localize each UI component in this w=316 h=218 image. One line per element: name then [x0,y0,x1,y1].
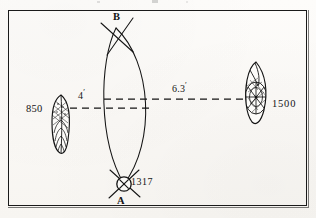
long-span-label: 6.3′ [172,82,187,94]
top-cross-stroke-b [107,18,133,55]
crossed-circle-node [117,177,131,191]
short-span-label: 4′ [78,89,85,101]
vertex-label-b: B [113,12,120,23]
figure-root: 850 1500 4′ 6.3′ B A 1317 [0,0,316,218]
lens-arc-right [116,28,146,184]
right-specimen-label: 1500 [272,99,296,110]
diagram-artwork [0,0,316,218]
long-span-value: 6.3 [172,83,185,94]
vertex-label-a: A [117,196,125,207]
left-specimen-label: 850 [26,104,43,115]
top-crossing [101,18,133,55]
long-span-prime: ′ [185,81,187,90]
right-specimen [245,62,267,124]
bottom-node-label: 1317 [131,177,153,187]
short-span-prime: ′ [83,88,85,97]
left-specimen [52,95,70,153]
dashed-measurement-lines [70,99,248,108]
lens-arc-left [104,28,124,184]
top-cross-stroke-a [101,23,133,52]
